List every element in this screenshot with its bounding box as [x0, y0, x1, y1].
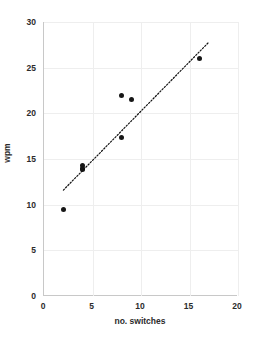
trendline: [44, 22, 238, 296]
x-tick-label: 5: [80, 301, 104, 311]
y-tick-label: 20: [6, 108, 36, 118]
y-tick-label: 30: [6, 17, 36, 27]
x-tick-label: 0: [31, 301, 55, 311]
y-tick-label: 5: [6, 245, 36, 255]
scatter-chart-figure: 051015202530 05101520 no. switches wpm: [0, 0, 270, 341]
x-axis-title: no. switches: [43, 316, 237, 326]
y-tick-label: 25: [6, 63, 36, 73]
x-tick-label: 20: [225, 301, 249, 311]
y-axis-title: wpm: [2, 133, 12, 173]
plot-area: [43, 22, 237, 296]
gridline-vertical: [238, 22, 239, 296]
trendline-segment: [63, 42, 209, 190]
y-tick-label: 0: [6, 291, 36, 301]
x-tick-label: 10: [128, 301, 152, 311]
x-tick-label: 15: [177, 301, 201, 311]
y-tick-label: 10: [6, 200, 36, 210]
